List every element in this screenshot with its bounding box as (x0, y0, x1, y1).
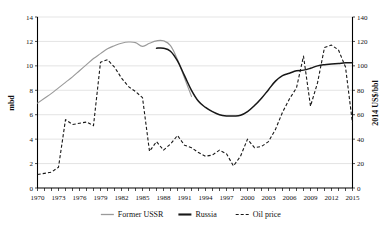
x-axis-tick-label: 2003 (262, 194, 277, 202)
x-axis-tick-label: 1976 (73, 194, 88, 202)
y-axis-right-tick-label: 100 (357, 62, 368, 70)
y-axis-left-tick-label: 2 (30, 160, 34, 168)
y-axis-right-tick-label: 120 (357, 38, 368, 46)
y-axis-right-tick-label: 140 (357, 14, 368, 22)
x-axis-tick-label: 1991 (178, 194, 193, 202)
legend-label: Oil price (253, 210, 282, 219)
y-axis-left-tick-label: 14 (26, 14, 34, 22)
x-axis-tick-label: 1979 (94, 194, 109, 202)
legend-label: Former USSR (118, 210, 164, 219)
x-axis-tick-label: 1988 (157, 194, 172, 202)
y-axis-left-tick-label: 10 (26, 62, 34, 70)
x-axis-tick-label: 1970 (31, 194, 46, 202)
x-axis-tick-label: 1973 (52, 194, 67, 202)
y-axis-right-tick-label: 40 (357, 136, 365, 144)
x-axis-tick-label: 2015 (346, 194, 361, 202)
x-axis-tick-label: 2009 (304, 194, 319, 202)
legend-label: Russia (195, 210, 217, 219)
line-chart: 02468101214 020406080100120140 197019731… (0, 0, 391, 236)
y-axis-right-tick-label: 80 (357, 87, 365, 95)
y-axis-right-tick-label: 20 (357, 160, 365, 168)
y-axis-left-tick-label: 8 (30, 87, 34, 95)
y-axis-left-tick-label: 4 (30, 136, 34, 144)
y-axis-right-tick-label: 0 (357, 185, 361, 193)
x-axis-tick-label: 2006 (283, 194, 298, 202)
x-axis-tick-label: 1985 (136, 194, 151, 202)
x-axis-tick-label: 1994 (199, 194, 214, 202)
y-axis-right-title: 2014 US$/bbl (371, 79, 380, 125)
chart-container: 02468101214 020406080100120140 197019731… (0, 0, 391, 236)
y-axis-left-tick-label: 12 (26, 38, 34, 46)
x-axis-tick-label: 1997 (220, 194, 235, 202)
y-axis-left-tick-label: 0 (30, 185, 34, 193)
x-axis-tick-label: 1982 (115, 194, 130, 202)
y-axis-right-tick-label: 60 (357, 111, 365, 119)
x-axis-tick-label: 2000 (241, 194, 256, 202)
x-axis-tick-label: 2012 (325, 194, 340, 202)
y-axis-left-title: mbd (7, 95, 16, 111)
y-axis-left-tick-label: 6 (30, 111, 34, 119)
